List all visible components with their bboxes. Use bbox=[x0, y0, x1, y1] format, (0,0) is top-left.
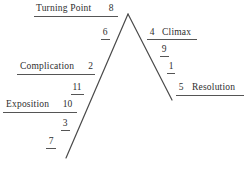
marker-9-rule bbox=[160, 56, 169, 57]
resolution-label: Resolution bbox=[192, 82, 235, 93]
marker-7-rule bbox=[46, 148, 56, 149]
marker-9-number: 9 bbox=[160, 44, 168, 55]
marker-1-rule bbox=[167, 73, 175, 74]
complication-rule bbox=[17, 74, 95, 75]
exposition-number: 10 bbox=[61, 99, 74, 110]
marker-1-number: 1 bbox=[167, 61, 175, 72]
plot-diagram-canvas: Turning Point 8 6 4 Climax 9 Complicatio… bbox=[0, 0, 247, 171]
resolution-number: 5 bbox=[177, 82, 185, 93]
complication-label: Complication bbox=[20, 61, 74, 72]
marker-6-rule bbox=[101, 39, 110, 40]
climax-label: Climax bbox=[162, 27, 191, 38]
climax-number: 4 bbox=[148, 27, 156, 38]
exposition-rule bbox=[3, 112, 77, 113]
complication-number: 2 bbox=[86, 61, 95, 72]
climax-rule bbox=[147, 39, 197, 40]
turning-point-rule bbox=[34, 16, 118, 17]
marker-3-number: 3 bbox=[61, 118, 69, 129]
marker-6-number: 6 bbox=[101, 27, 109, 38]
marker-11-rule bbox=[71, 94, 84, 95]
turning-point-number: 8 bbox=[106, 3, 116, 14]
exposition-label: Exposition bbox=[6, 99, 49, 110]
resolution-rule bbox=[176, 95, 244, 96]
turning-point-label: Turning Point bbox=[36, 3, 91, 14]
marker-7-number: 7 bbox=[47, 136, 55, 147]
marker-11-number: 11 bbox=[71, 82, 83, 93]
marker-3-rule bbox=[61, 130, 70, 131]
